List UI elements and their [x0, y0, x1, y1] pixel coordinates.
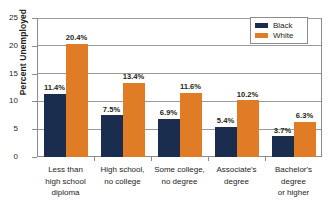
x-category-label-line: Less than — [33, 164, 98, 176]
bar-black — [101, 115, 123, 157]
bar-white — [294, 122, 316, 157]
x-category-label-line: Associate's — [204, 164, 269, 176]
bar-group: 7.5%13.4% — [94, 18, 151, 157]
bar-black — [215, 127, 237, 157]
legend-swatch — [255, 23, 268, 28]
x-category-label: Associate'sdegree — [204, 164, 269, 187]
bar-white — [123, 83, 145, 158]
x-category-label: High school,no college — [90, 164, 155, 187]
legend-label: Black — [273, 21, 293, 30]
x-category-label-line: Bachelor's — [261, 164, 326, 176]
x-category-label-line: Some college, — [147, 164, 212, 176]
x-category-label-line: diploma — [33, 187, 98, 199]
bar-black — [44, 94, 66, 157]
x-tick-mark — [151, 157, 152, 161]
bar-value-label: 11.6% — [173, 83, 209, 91]
bar-white — [66, 44, 88, 157]
y-tick-label: 15 — [0, 70, 18, 78]
y-tick-label: 10 — [0, 97, 18, 105]
legend-item-black[interactable]: Black — [255, 21, 303, 30]
y-tick-label: 0 — [0, 153, 18, 161]
x-category-label-line: high school — [33, 176, 98, 188]
x-category-label-line: High school, — [90, 164, 155, 176]
y-tick-label: 25 — [0, 14, 18, 22]
y-axis-title: Percent Unemployed — [18, 0, 30, 122]
bar-white — [237, 100, 259, 157]
bar-value-label: 10.2% — [230, 91, 266, 99]
x-category-label-line: or higher — [261, 187, 326, 199]
x-tick-mark — [94, 157, 95, 161]
bar-group: 6.9%11.6% — [151, 18, 208, 157]
x-category-label-line: no degree — [147, 176, 212, 188]
x-category-label: Less thanhigh schooldiploma — [33, 164, 98, 199]
bar-black — [158, 119, 180, 157]
x-tick-mark — [208, 157, 209, 161]
y-tick-label: 5 — [0, 125, 18, 133]
bar-value-label: 20.4% — [59, 34, 95, 42]
y-tick-mark — [32, 157, 37, 158]
x-category-label-line: no college — [90, 176, 155, 188]
bar-chart: Percent Unemployed 0510152025 11.4%20.4%… — [0, 0, 332, 204]
x-category-label-line: degree — [204, 176, 269, 188]
bar-black — [272, 136, 294, 157]
x-category-label: Some college,no degree — [147, 164, 212, 187]
bar-group: 11.4%20.4% — [37, 18, 94, 157]
bar-white — [180, 93, 202, 157]
bar-value-label: 13.4% — [116, 73, 152, 81]
x-category-label-line: degree — [261, 176, 326, 188]
x-category-label: Bachelor'sdegreeor higher — [261, 164, 326, 199]
legend-swatch — [255, 33, 268, 38]
bar-value-label: 6.3% — [287, 112, 323, 120]
y-tick-label: 20 — [0, 42, 18, 50]
legend-item-white[interactable]: White — [255, 31, 303, 40]
legend: BlackWhite — [250, 17, 308, 44]
legend-label: White — [273, 31, 293, 40]
x-tick-mark — [265, 157, 266, 161]
